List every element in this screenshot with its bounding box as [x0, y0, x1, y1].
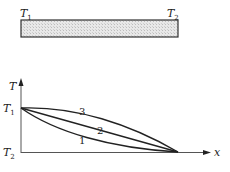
- rod-right-temp-label: T2: [167, 7, 179, 22]
- y-axis-label: T: [9, 80, 18, 93]
- curve-1-label: 1: [79, 135, 85, 146]
- y-tick-t2: T2: [3, 146, 15, 161]
- rod-body: [21, 20, 178, 37]
- curve-2-label: 2: [97, 125, 103, 136]
- y-tick-t1: T1: [3, 102, 15, 117]
- rod: T1 T2: [20, 7, 179, 37]
- diagram-canvas: T1 T2 T x T1 T2 3 2 1: [0, 0, 230, 172]
- rod-left-temp-label: T1: [20, 7, 32, 22]
- axes: T x T1 T2: [3, 78, 221, 161]
- x-axis-arrow-icon: [203, 150, 211, 155]
- x-axis-label: x: [214, 146, 221, 159]
- y-axis-arrow-icon: [19, 78, 24, 86]
- curve-3-label: 3: [79, 106, 85, 117]
